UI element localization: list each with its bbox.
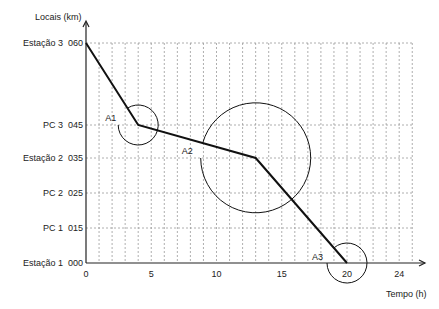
- angle-label: A2: [182, 146, 193, 156]
- y-tick-label: 035: [68, 153, 83, 163]
- x-tick-label: 20: [342, 269, 352, 279]
- x-tick-label: 5: [149, 269, 154, 279]
- y-tick-label: 000: [68, 258, 83, 268]
- y-level-name: Estação 3: [23, 38, 63, 48]
- y-tick-label: 015: [68, 223, 83, 233]
- angle-label: A1: [105, 113, 116, 123]
- y-level-name: PC 2: [43, 188, 63, 198]
- y-axis-title: Locais (km): [35, 12, 82, 22]
- y-level-name: Estação 2: [23, 153, 63, 163]
- y-tick-label: 045: [68, 120, 83, 130]
- y-tick-label: 060: [68, 38, 83, 48]
- angle-label: A3: [312, 252, 323, 262]
- chart: Locais (km) Tempo (h) Estação 1000PC 101…: [0, 0, 439, 309]
- y-tick-label: 025: [68, 188, 83, 198]
- x-tick-label: 15: [277, 269, 287, 279]
- grid: [86, 43, 412, 263]
- y-level-name: PC 1: [43, 223, 63, 233]
- x-tick-label: 24: [394, 269, 404, 279]
- x-tick-label: 0: [83, 269, 88, 279]
- axes: [83, 21, 425, 266]
- x-tick-label: 10: [211, 269, 221, 279]
- y-level-name: PC 3: [43, 120, 63, 130]
- x-axis-title: Tempo (h): [386, 289, 427, 299]
- y-level-name: Estação 1: [23, 258, 63, 268]
